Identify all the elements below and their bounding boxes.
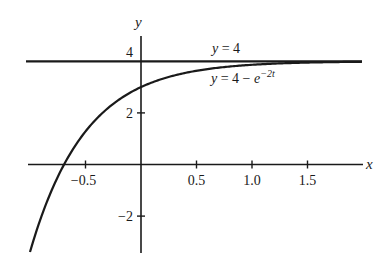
curve-annotation-exponent: −2t bbox=[260, 68, 275, 79]
curve-annotation: y = 4 − e−2t bbox=[209, 68, 275, 86]
x-tick-label: 1.0 bbox=[243, 173, 261, 188]
x-tick-label: 1.5 bbox=[299, 173, 317, 188]
curve-annotation-eq: = 4 − bbox=[217, 71, 254, 86]
y-tick-label: 4 bbox=[126, 45, 133, 60]
asymptote-annotation: y = 4 bbox=[210, 41, 240, 56]
y-tick-label: 2 bbox=[126, 106, 133, 121]
y-axis-label: y bbox=[133, 14, 142, 30]
x-axis-label: x bbox=[365, 156, 373, 172]
asymptote-annotation-eq: = 4 bbox=[218, 41, 240, 56]
x-tick-label: 0.5 bbox=[188, 173, 206, 188]
curve-line bbox=[30, 62, 362, 252]
chart-plot: −0.50.51.01.5 −224 x y y = 4 y = 4 − e−2… bbox=[0, 0, 392, 263]
y-tick-label: −2 bbox=[118, 209, 133, 224]
x-tick-label: −0.5 bbox=[71, 173, 96, 188]
